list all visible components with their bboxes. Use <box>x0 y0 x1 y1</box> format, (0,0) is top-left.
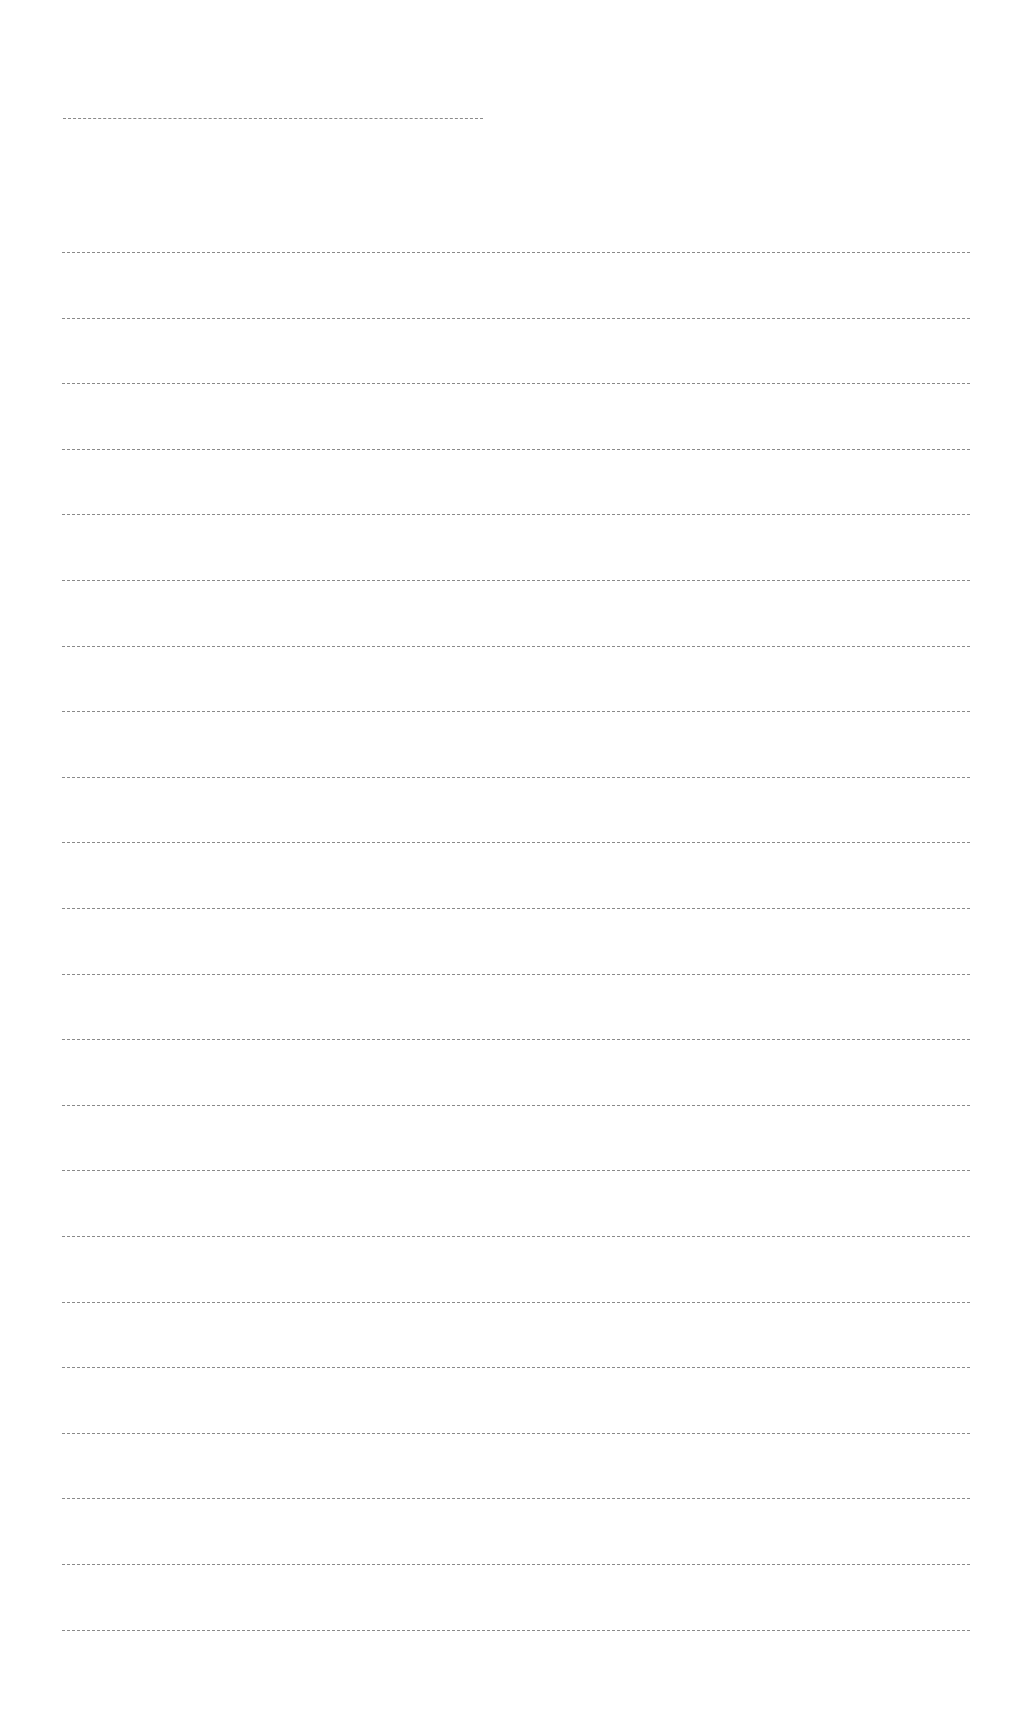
ruled-line <box>62 1302 970 1303</box>
ruled-line <box>62 1498 970 1499</box>
ruled-line <box>62 252 970 253</box>
ruled-line <box>62 1630 970 1631</box>
ruled-line <box>62 1170 970 1171</box>
ruled-lines-container <box>0 0 1025 1718</box>
ruled-line <box>62 842 970 843</box>
ruled-line <box>62 1039 970 1040</box>
ruled-line <box>62 974 970 975</box>
ruled-line <box>62 777 970 778</box>
ruled-line <box>62 383 970 384</box>
ruled-line <box>62 646 970 647</box>
ruled-line <box>62 514 970 515</box>
ruled-page <box>0 0 1025 1718</box>
ruled-line <box>62 1433 970 1434</box>
ruled-line <box>62 711 970 712</box>
ruled-line <box>62 1564 970 1565</box>
ruled-line <box>62 318 970 319</box>
ruled-line <box>62 1105 970 1106</box>
ruled-line <box>62 580 970 581</box>
ruled-line <box>62 1367 970 1368</box>
ruled-line <box>62 1236 970 1237</box>
ruled-line <box>62 908 970 909</box>
ruled-line <box>62 449 970 450</box>
